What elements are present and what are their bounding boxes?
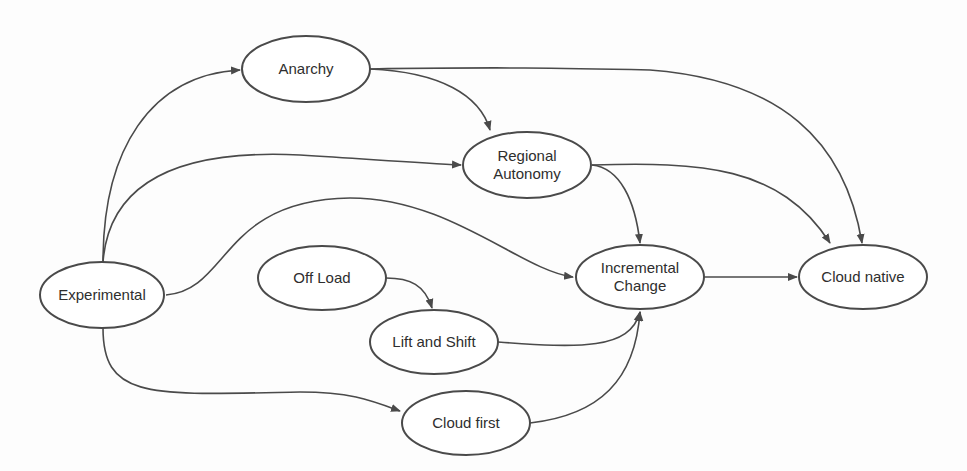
edge-cloud-first-to-incremental-change (530, 312, 640, 423)
edge-lift-and-shift-to-incremental-change (498, 312, 640, 345)
edge-experimental-to-cloud-first (103, 328, 400, 411)
edge-experimental-to-regional-autonomy (103, 154, 461, 262)
node-incremental-change (576, 245, 704, 309)
node-experimental (40, 262, 164, 328)
node-regional-autonomy (463, 132, 591, 198)
node-off-load (258, 246, 386, 310)
edge-regional-autonomy-to-cloud-native (592, 164, 830, 243)
diagram-canvas: AnarchyRegional AutonomyExperimentalOff … (0, 0, 967, 471)
edges-layer (0, 0, 967, 471)
node-cloud-first (402, 391, 530, 455)
edge-off-load-to-lift-and-shift (386, 278, 432, 308)
edge-anarchy-to-regional-autonomy (370, 69, 490, 130)
edge-experimental-to-anarchy (103, 70, 240, 262)
node-anarchy (242, 36, 370, 102)
edge-regional-autonomy-to-incremental-change (592, 165, 640, 243)
node-lift-and-shift (370, 310, 498, 374)
node-cloud-native (799, 245, 927, 309)
edge-anarchy-to-cloud-native (370, 68, 862, 243)
